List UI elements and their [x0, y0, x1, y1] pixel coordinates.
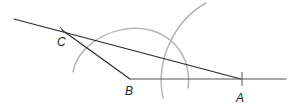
segment-c-b: [62, 30, 130, 79]
label-b: B: [125, 84, 133, 98]
ray-through-c-to-a: [14, 19, 241, 79]
label-c: C: [57, 35, 66, 49]
construction-arc-right: [161, 3, 206, 98]
label-a: A: [235, 91, 244, 105]
angle-construction-diagram: C B A: [0, 0, 301, 108]
tick-mark-c: [60, 27, 66, 34]
